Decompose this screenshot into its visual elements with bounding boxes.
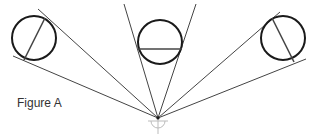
figure-diagram	[0, 0, 323, 140]
tangent-line-right	[158, 59, 306, 118]
circle-left	[12, 16, 56, 60]
diameter-line-left	[24, 18, 45, 60]
diameter-line-right	[272, 18, 294, 62]
circle-middle	[138, 20, 182, 64]
circle-right	[261, 16, 305, 60]
figure-label: Figure A	[17, 96, 62, 110]
circles	[12, 16, 305, 64]
origin-crosshair-icon	[148, 116, 168, 134]
